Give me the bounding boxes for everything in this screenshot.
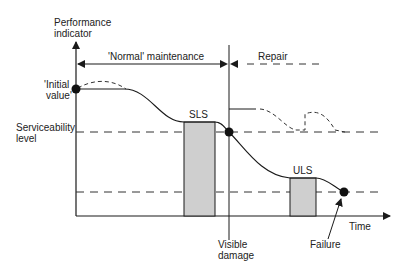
visible-damage-dot	[225, 128, 234, 137]
initial-value-dot	[72, 85, 81, 94]
visible-damage-label-line1: Visible	[218, 239, 248, 250]
x-axis-label: Time	[349, 221, 371, 232]
sls-label: SLS	[189, 109, 208, 120]
failure-pointer-arrow	[328, 199, 341, 239]
performance-degradation-diagram: Performance indicator Time 'Normal' main…	[0, 0, 403, 271]
serviceability-label-line2: level	[16, 133, 37, 144]
initial-value-label-line2: value'	[46, 90, 72, 101]
repair-label: Repair	[258, 51, 288, 62]
failure-label: Failure	[310, 239, 341, 250]
visible-damage-label-line2: damage	[218, 250, 255, 261]
repair-left-arrowhead-icon	[230, 60, 238, 68]
serviceability-label-line1: Serviceability	[16, 122, 75, 133]
y-axis-label-line2: indicator	[54, 28, 92, 39]
sls-box	[184, 122, 215, 216]
uls-label: ULS	[293, 165, 313, 176]
initial-dashed-curve	[78, 81, 126, 89]
repair-dashed-curve	[260, 109, 345, 132]
failure-dot	[340, 188, 349, 197]
y-axis-label-line1: Performance	[54, 17, 112, 28]
normal-maintenance-label: 'Normal' maintenance	[108, 51, 205, 62]
normal-maintenance-right-arrowhead-icon	[220, 60, 228, 68]
initial-value-label-line1: 'Initial	[44, 79, 69, 90]
uls-box	[290, 178, 316, 216]
